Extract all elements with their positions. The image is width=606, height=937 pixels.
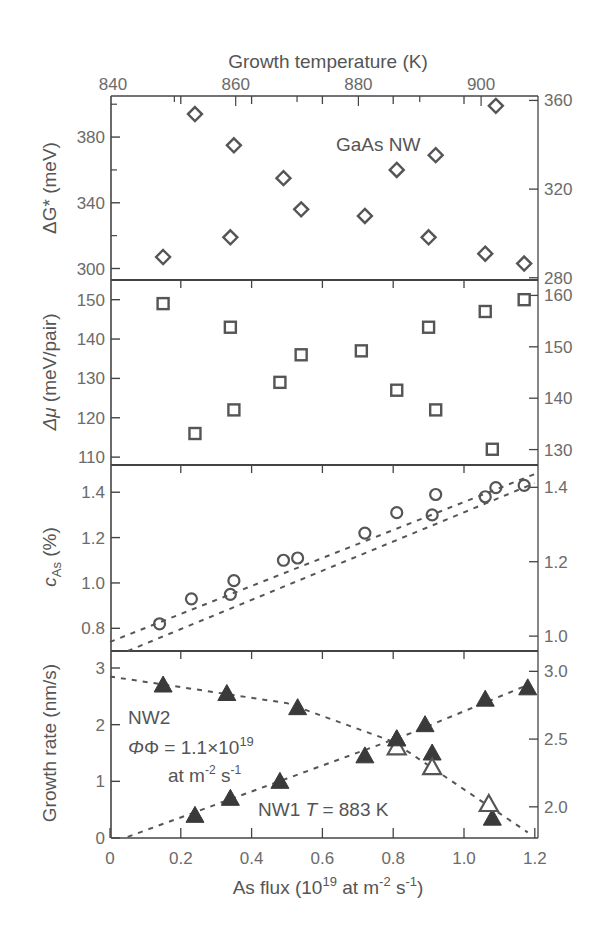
triangle-filled-marker (476, 690, 494, 706)
diamond-marker (429, 148, 443, 162)
right-tick-label: 2.0 (544, 798, 568, 817)
diamond-marker (188, 107, 202, 121)
top-tick-label: 860 (222, 75, 250, 94)
diamond-marker (276, 171, 290, 185)
panel-dmu: 110120130140150130140150160 (77, 280, 573, 467)
right-tick-label: 360 (544, 91, 572, 110)
square-marker (391, 385, 402, 396)
data-layer (110, 99, 537, 837)
square-marker (274, 377, 285, 388)
square-marker (423, 322, 434, 333)
circle-marker (292, 553, 303, 564)
diamond-marker (517, 257, 531, 271)
chart-figure: Growth temperature (K) 840860880900 3003… (0, 0, 606, 937)
diamond-marker (223, 230, 237, 244)
panel1-ylabel: ΔG* (meV) (39, 142, 60, 234)
x-axis-title: As flux (1019 at m-2 s-1) (233, 874, 424, 898)
svg-text:Δμ (meV/pair): Δμ (meV/pair) (39, 313, 60, 431)
square-marker (487, 444, 498, 455)
nw2-label: NW2 (128, 707, 170, 728)
x-axis-ticks: 00.20.40.60.81.01.2 (105, 828, 546, 868)
svg-text:ΔG* (meV): ΔG* (meV) (39, 142, 60, 234)
triangle-filled-marker (186, 806, 204, 822)
right-tick-label: 140 (544, 389, 572, 408)
right-tick-label: 280 (544, 269, 572, 288)
nw1-label: NW1 T = 883 K (258, 799, 389, 820)
y-tick-label: 150 (77, 291, 105, 310)
y-tick-label: 380 (77, 128, 105, 147)
y-tick-label: 0 (96, 829, 105, 848)
circle-marker (391, 507, 402, 518)
y-tick-label: 2 (96, 716, 105, 735)
square-marker (480, 306, 491, 317)
y-tick-label: 1.0 (81, 574, 105, 593)
circle-marker (480, 491, 491, 502)
square-marker (228, 404, 239, 415)
panels: 3003403802803203601101201301401501301401… (77, 91, 573, 848)
top-tick-label: 900 (467, 75, 495, 94)
circle-marker (186, 593, 197, 604)
circle-marker (359, 528, 370, 539)
x-tick-label: 1.0 (452, 849, 476, 868)
y-tick-label: 130 (77, 369, 105, 388)
top-axis-title: Growth temperature (K) (228, 51, 428, 72)
y-tick-label: 1.2 (81, 529, 105, 548)
triangle-filled-marker (388, 730, 406, 746)
x-tick-label: 0.6 (311, 849, 335, 868)
circle-marker (225, 589, 236, 600)
right-tick-label: 1.2 (544, 553, 568, 572)
panel2-ylabel: Δμ (meV/pair) (39, 313, 60, 431)
x-tick-label: 0.2 (169, 849, 193, 868)
x-tick-label: 1.2 (523, 849, 547, 868)
triangle-filled-marker (289, 699, 307, 715)
phi-label: ΦΦ = 1.1×1019 (128, 734, 254, 758)
phi-units-label: at m-2 s-1 (168, 763, 241, 786)
diamond-marker (478, 247, 492, 261)
right-tick-label: 1.0 (544, 627, 568, 646)
right-tick-label: 1.4 (544, 478, 568, 497)
circle-marker (228, 575, 239, 586)
diamond-marker (390, 163, 404, 177)
top-tick-label: 840 (99, 75, 127, 94)
triangle-filled-marker (221, 789, 239, 805)
x-tick-label: 0 (105, 849, 114, 868)
x-tick-label: 0.8 (381, 849, 405, 868)
diamond-marker (489, 99, 503, 113)
y-tick-label: 1.4 (81, 483, 105, 502)
y-tick-label: 300 (77, 260, 105, 279)
top-tick-label: 880 (344, 75, 372, 94)
circle-marker (154, 618, 165, 629)
y-tick-label: 0.8 (81, 619, 105, 638)
right-tick-label: 3.0 (544, 662, 568, 681)
diamond-marker (422, 230, 436, 244)
circle-marker (278, 555, 289, 566)
x-tick-label: 0.4 (240, 849, 264, 868)
svg-text:cAs (%): cAs (%) (39, 527, 64, 587)
diamond-marker (358, 209, 372, 223)
right-tick-label: 2.5 (544, 730, 568, 749)
diamond-marker (294, 202, 308, 216)
circle-marker (427, 509, 438, 520)
square-marker (225, 322, 236, 333)
diamond-marker (227, 138, 241, 152)
circle-marker (430, 489, 441, 500)
top-axis-ticks: 840860880900 (99, 75, 495, 94)
triangle-filled-marker (416, 716, 434, 732)
panel3-ylabel: cAs (%) (39, 527, 64, 587)
y-tick-label: 340 (77, 194, 105, 213)
right-tick-label: 320 (544, 180, 572, 199)
right-tick-label: 150 (544, 338, 572, 357)
y-tick-label: 3 (96, 659, 105, 678)
triangle-filled-marker (271, 772, 289, 788)
square-marker (296, 349, 307, 360)
triangle-filled-marker (356, 747, 374, 763)
y-tick-label: 120 (77, 409, 105, 428)
y-tick-label: 110 (78, 448, 105, 467)
panel-dG: 300340380280320360 (77, 91, 573, 287)
triangle-open-marker (423, 758, 441, 774)
right-tick-label: 160 (544, 286, 572, 305)
y-tick-label: 1 (96, 772, 105, 791)
square-marker (158, 298, 169, 309)
svg-text:Growth rate (nm/s): Growth rate (nm/s) (39, 664, 60, 822)
square-marker (519, 294, 530, 305)
